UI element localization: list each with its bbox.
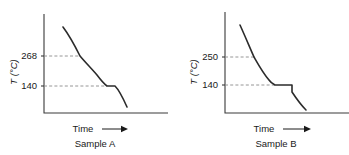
x-axis-label: Time <box>73 123 94 134</box>
ytick-label-250: 250 <box>202 51 218 62</box>
time-arrow-head <box>121 126 128 132</box>
time-arrow-head <box>304 126 311 132</box>
ytick-label-140: 140 <box>202 79 218 90</box>
chart-panel-sample-b: 250 140 T (°C) Time Sample B <box>175 0 349 155</box>
chart-panel-sample-a: 268 140 T (°C) Time Sample A <box>0 0 174 155</box>
axis-frame <box>225 12 349 113</box>
ytick-label-140: 140 <box>21 80 37 91</box>
cooling-curves-figure: 268 140 T (°C) Time Sample A <box>0 0 349 155</box>
sample-a-svg: 268 140 T (°C) Time Sample A <box>0 0 174 155</box>
sample-caption: Sample A <box>75 138 116 149</box>
y-axis-title: T (°C) <box>188 59 199 84</box>
sample-b-svg: 250 140 T (°C) Time Sample B <box>175 0 349 155</box>
x-axis-label: Time <box>254 123 275 134</box>
cooling-curve <box>63 27 127 107</box>
sample-caption: Sample B <box>255 138 296 149</box>
axis-frame <box>44 14 168 113</box>
cooling-curve <box>240 25 306 110</box>
y-axis-title: T (°C) <box>8 59 19 84</box>
ytick-label-268: 268 <box>21 50 37 61</box>
